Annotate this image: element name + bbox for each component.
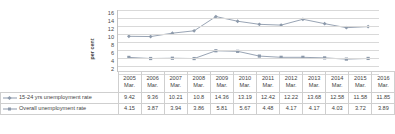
column-header-2009: 2009Mar. — [210, 72, 233, 93]
gridline — [118, 58, 379, 59]
table-cell: 11.85 — [372, 93, 395, 104]
column-header-month: Mar. — [119, 83, 141, 88]
column-header-month: Mar. — [280, 83, 302, 88]
table-cell: 13.19 — [233, 93, 256, 104]
table-cell: 9.36 — [141, 93, 164, 104]
plot-area — [117, 10, 379, 74]
table-header-row: 2005Mar.2006Mar.2007Mar.2008Mar.2009Mar.… — [1, 72, 395, 93]
table-cell: 3.87 — [141, 104, 164, 115]
column-header-2016: 2016Mar. — [372, 72, 395, 93]
table-cell: 10.21 — [164, 93, 187, 104]
table-cell: 14.36 — [210, 93, 233, 104]
column-header-2015: 2015Mar. — [349, 72, 372, 93]
column-header-month: Mar. — [326, 83, 348, 88]
table-cell: 12.42 — [256, 93, 279, 104]
data-point-marker — [149, 35, 153, 39]
y-axis-title: per cent — [89, 29, 95, 69]
column-header-2008: 2008Mar. — [187, 72, 210, 93]
data-point-marker — [323, 22, 327, 26]
column-header-2010: 2010Mar. — [233, 72, 256, 93]
table-cell: 3.86 — [187, 104, 210, 115]
column-header-year: 2008 — [188, 76, 210, 81]
table-cell: 9.42 — [118, 93, 141, 104]
gridline — [118, 10, 379, 11]
chart-plot-region: per cent 1614121086420 — [0, 0, 382, 72]
table-cell: 12.22 — [280, 93, 303, 104]
column-header-2011: 2011Mar. — [256, 72, 279, 93]
gridline — [118, 34, 379, 35]
column-header-year: 2009 — [211, 76, 233, 81]
chart-data-table: 2005Mar.2006Mar.2007Mar.2008Mar.2009Mar.… — [0, 71, 395, 115]
column-header-month: Mar. — [165, 83, 187, 88]
y-axis-tick-labels: 1614121086420 — [100, 8, 114, 76]
y-axis-tick-label: 16 — [100, 10, 114, 16]
table-cell: 11.58 — [349, 93, 372, 104]
column-header-year: 2015 — [349, 76, 371, 81]
gridline — [118, 18, 379, 19]
column-header-year: 2010 — [234, 76, 256, 81]
table-cell: 4.15 — [118, 104, 141, 115]
gridline — [118, 50, 379, 51]
y-axis-tick-label: 10 — [100, 34, 114, 40]
gridline — [118, 66, 379, 67]
y-axis-tick-label: 8 — [100, 42, 114, 48]
column-header-year: 2012 — [280, 76, 302, 81]
column-header-year: 2011 — [257, 76, 279, 81]
column-header-month: Mar. — [234, 83, 256, 88]
table-cell: 3.72 — [349, 104, 372, 115]
table-cell: 12.58 — [326, 93, 349, 104]
column-header-2005: 2005Mar. — [118, 72, 141, 93]
legend-item-label: 15-24 yrs unemployment rate — [19, 94, 92, 100]
data-point-marker — [236, 19, 240, 23]
column-header-month: Mar. — [188, 83, 210, 88]
table-cell: 4.17 — [280, 104, 303, 115]
column-header-year: 2016 — [372, 76, 394, 81]
column-header-month: Mar. — [372, 83, 394, 88]
y-axis-tick-label: 6 — [100, 50, 114, 56]
legend-diamond-marker-icon — [3, 95, 17, 101]
table-row: Overall unemployment rate4.153.873.943.8… — [1, 104, 395, 115]
gridline — [118, 26, 379, 27]
column-header-year: 2006 — [142, 76, 164, 81]
column-header-year: 2013 — [303, 76, 325, 81]
table-cell: 10.8 — [187, 93, 210, 104]
column-header-month: Mar. — [349, 83, 371, 88]
table-cell: 13.68 — [303, 93, 326, 104]
column-header-year: 2014 — [326, 76, 348, 81]
column-header-2007: 2007Mar. — [164, 72, 187, 93]
column-header-year: 2007 — [165, 76, 187, 81]
column-header-2013: 2013Mar. — [303, 72, 326, 93]
column-header-month: Mar. — [303, 83, 325, 88]
y-axis-tick-label: 12 — [100, 26, 114, 32]
table-row: 15-24 yrs unemployment rate9.429.3610.21… — [1, 93, 395, 104]
table-cell: 5.81 — [210, 104, 233, 115]
column-header-2014: 2014Mar. — [326, 72, 349, 93]
column-header-year: 2005 — [119, 76, 141, 81]
y-axis-title-wrapper: per cent — [84, 18, 100, 78]
column-header-2012: 2012Mar. — [280, 72, 303, 93]
legend-item-1[interactable]: 15-24 yrs unemployment rate — [1, 93, 119, 104]
column-header-month: Mar. — [211, 83, 233, 88]
gridline — [118, 42, 379, 43]
table-cell: 5.67 — [233, 104, 256, 115]
legend-item-label: Overall unemployment rate — [19, 105, 86, 111]
column-header-month: Mar. — [142, 83, 164, 88]
y-axis-tick-label: 4 — [100, 58, 114, 64]
table-cell: 3.94 — [164, 104, 187, 115]
column-header-month: Mar. — [257, 83, 279, 88]
table-cell: 4.17 — [303, 104, 326, 115]
legend-item-2[interactable]: Overall unemployment rate — [1, 104, 119, 115]
table-corner-blank — [1, 72, 119, 93]
table-cell: 4.03 — [326, 104, 349, 115]
column-header-2006: 2006Mar. — [141, 72, 164, 93]
table-cell: 3.89 — [372, 104, 395, 115]
table-cell: 4.48 — [256, 104, 279, 115]
legend-square-marker-icon — [3, 106, 17, 112]
y-axis-tick-label: 14 — [100, 18, 114, 24]
